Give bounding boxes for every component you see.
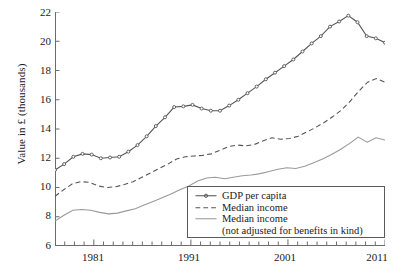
x-tick-label: 1981 xyxy=(70,252,116,263)
legend-item-gdp-per-capita: GDP per capita xyxy=(188,190,384,202)
legend-item-median-income-unadjusted-sub: (not adjusted for benefits in kind) xyxy=(188,225,384,237)
x-tick-label: 2011 xyxy=(354,252,395,263)
legend-label: GDP per capita xyxy=(222,190,286,202)
series-line-gdp-per-capita xyxy=(55,16,385,170)
legend-sublabel: (not adjusted for benefits in kind) xyxy=(222,225,363,237)
x-tick-label: 2001 xyxy=(262,252,308,263)
series-line-median-income xyxy=(55,79,385,197)
x-axis-ticks xyxy=(55,240,385,246)
x-tick-label: 1991 xyxy=(166,252,212,263)
legend-item-median-income: Median income xyxy=(188,202,384,214)
chart-container: Value in £ (thousands) 22 20 18 16 14 12… xyxy=(0,0,395,275)
legend-key-solid-marker-icon xyxy=(194,190,218,202)
legend-label: Median income xyxy=(222,202,288,214)
y-axis-ticks xyxy=(56,12,60,246)
legend-key-solid-light-icon xyxy=(194,213,218,225)
series-markers-gdp-per-capita xyxy=(55,14,385,171)
chart-legend: GDP per capita Median income Median inco… xyxy=(187,186,385,238)
legend-key-dashed-icon xyxy=(194,202,218,214)
legend-label: Median income xyxy=(222,213,288,225)
legend-item-median-income-unadjusted: Median income xyxy=(188,213,384,225)
